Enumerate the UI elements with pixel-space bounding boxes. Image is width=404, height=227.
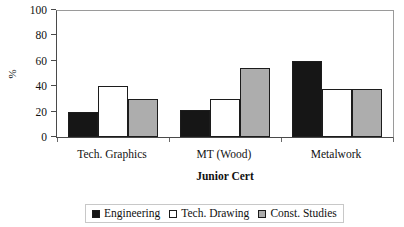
y-axis-tick: 20 [0, 105, 56, 119]
bar [210, 99, 240, 137]
x-axis-title: Junior Cert [56, 170, 394, 182]
y-axis-tick-label: 20 [36, 105, 48, 119]
bar [352, 89, 382, 137]
bar [68, 112, 98, 137]
x-axis-category-label: Metalwork [280, 146, 392, 162]
x-axis-tick-mark [281, 138, 282, 142]
x-axis-ticks [57, 138, 395, 143]
bars-layer [57, 10, 393, 137]
legend-item: Tech. Drawing [169, 207, 249, 220]
legend-swatch [258, 210, 266, 218]
y-axis-tick: 80 [0, 28, 56, 42]
y-axis-tick-label: 40 [36, 79, 48, 93]
legend-swatch [92, 210, 100, 218]
bar-group [292, 10, 382, 137]
bar-group [68, 10, 158, 137]
bar [128, 99, 158, 137]
x-axis-tick-mark [169, 138, 170, 142]
y-axis-tick-label: 100 [30, 3, 47, 17]
y-axis-tick: 100 [0, 3, 56, 17]
y-axis-tick-label: 0 [41, 130, 47, 144]
legend-item: Const. Studies [258, 207, 336, 220]
bar-group [180, 10, 270, 137]
x-axis-tick-mark [57, 138, 58, 142]
legend-label: Tech. Drawing [181, 207, 249, 220]
bar [292, 61, 322, 137]
x-axis-tick-mark [393, 138, 394, 142]
legend-label: Engineering [104, 207, 160, 220]
bar [98, 86, 128, 137]
x-axis-category-label: Tech. Graphics [56, 146, 168, 162]
legend-label: Const. Studies [270, 207, 336, 220]
y-axis-tick: 40 [0, 79, 56, 93]
bar [180, 110, 210, 137]
bar [240, 68, 270, 137]
x-axis-category-label: MT (Wood) [168, 146, 280, 162]
y-axis-tick-label: 80 [36, 28, 48, 42]
y-axis-ticks: 020406080100 [0, 10, 56, 138]
bar [322, 89, 352, 137]
y-axis-tick: 0 [0, 130, 56, 144]
x-axis-category-labels: Tech. GraphicsMT (Wood)Metalwork [56, 146, 394, 164]
bar-chart: % 020406080100 Tech. GraphicsMT (Wood)Me… [0, 0, 404, 227]
legend: EngineeringTech. DrawingConst. Studies [85, 204, 344, 223]
legend-item: Engineering [92, 207, 160, 220]
y-axis-tick-label: 60 [36, 54, 48, 68]
y-axis-tick: 60 [0, 54, 56, 68]
legend-swatch [169, 210, 177, 218]
